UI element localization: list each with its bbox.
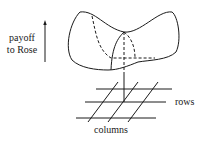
axis-label-payoff: payoff: [9, 32, 36, 43]
saddle-surface: [68, 12, 179, 72]
axis-label-to-rose: to Rose: [7, 44, 38, 55]
payoff-axis-arrow: [43, 20, 46, 62]
grid-label-rows: rows: [175, 96, 195, 107]
grid-label-columns: columns: [94, 124, 128, 135]
saddle-payoff-diagram: payoff to Rose rows columns: [0, 0, 197, 144]
